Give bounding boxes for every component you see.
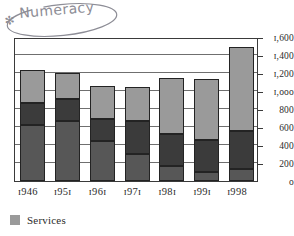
bar-segment-1991-middle[interactable]	[194, 140, 219, 172]
y-axis-tick-1200: ɪ,200	[274, 69, 294, 79]
x-axis-labels: ɪ946ɪ95ɪɪ96ɪɪ97ɪɪ98ɪɪ99ɪɪ998	[14, 186, 258, 202]
bar-segment-1951-middle[interactable]	[55, 99, 80, 121]
y-axis-tickmark	[258, 92, 263, 93]
y-axis-tick-1000: ɪ,ooo	[274, 87, 294, 97]
bar-1946[interactable]	[20, 70, 45, 181]
chart-root: ✻ Numeracy o200400600800ɪ,oooɪ,200ɪ,400ɪ…	[0, 0, 294, 236]
bar-1951[interactable]	[55, 73, 80, 181]
bar-segment-1951-Services[interactable]	[55, 73, 80, 100]
handwritten-annotation: ✻ Numeracy	[2, 1, 128, 41]
bar-1991[interactable]	[194, 79, 219, 181]
y-axis-tick-400: 400	[279, 141, 294, 151]
bar-segment-1946-middle[interactable]	[20, 103, 45, 125]
y-axis-labels: o200400600800ɪ,oooɪ,200ɪ,400ɪ,600	[259, 30, 294, 192]
y-axis-tickmark	[258, 38, 263, 39]
x-axis-tick-1991: ɪ99ɪ	[186, 186, 218, 197]
bar-segment-1971-Services[interactable]	[125, 87, 150, 121]
bars-container	[15, 39, 257, 181]
bar-segment-1961-Services[interactable]	[90, 86, 115, 119]
x-axis-tick-1981: ɪ98ɪ	[151, 186, 183, 197]
bar-segment-1981-middle[interactable]	[159, 134, 184, 166]
bar-segment-1998-middle[interactable]	[229, 131, 254, 170]
x-axis-tick-1946: ɪ946	[12, 186, 44, 197]
y-axis-tickmark	[258, 128, 263, 129]
chart-legend: Services	[10, 214, 66, 226]
x-axis-tick-1971: ɪ97ɪ	[117, 186, 149, 197]
bar-segment-1981-Services[interactable]	[159, 78, 184, 134]
y-axis-tick-600: 600	[279, 123, 294, 133]
y-axis-tick-200: 200	[279, 159, 294, 169]
y-axis-tickmark	[258, 110, 263, 111]
y-axis-tickmark	[258, 146, 263, 147]
bar-segment-1971-middle[interactable]	[125, 121, 150, 154]
bar-segment-1971-base[interactable]	[125, 154, 150, 181]
y-axis-tickmark	[258, 56, 263, 57]
x-axis-tick-1961: ɪ96ɪ	[82, 186, 114, 197]
annotation-star-icon: ✻	[4, 13, 16, 29]
bar-segment-1961-middle[interactable]	[90, 119, 115, 141]
y-axis-tickmark	[258, 74, 263, 75]
bar-segment-1998-Services[interactable]	[229, 47, 254, 131]
legend-swatch-services	[10, 215, 20, 225]
y-axis-tick-1600: ɪ,600	[274, 33, 294, 43]
bar-1981[interactable]	[159, 78, 184, 181]
y-axis-tickmark	[258, 164, 263, 165]
y-axis-tick-1400: ɪ,400	[274, 51, 294, 61]
bar-segment-1981-base[interactable]	[159, 166, 184, 181]
bar-1971[interactable]	[125, 87, 150, 181]
y-axis-tick-800: 800	[279, 105, 294, 115]
bar-segment-1991-Services[interactable]	[194, 79, 219, 140]
x-axis-tick-1951: ɪ95ɪ	[47, 186, 79, 197]
bar-segment-1951-base[interactable]	[55, 121, 80, 181]
bar-segment-1946-base[interactable]	[20, 125, 45, 181]
bar-segment-1998-base[interactable]	[229, 169, 254, 181]
legend-label-services: Services	[27, 214, 66, 226]
bar-segment-1946-Services[interactable]	[20, 70, 45, 103]
bar-1961[interactable]	[90, 86, 115, 181]
plot-area	[14, 38, 258, 182]
bar-segment-1991-base[interactable]	[194, 172, 219, 181]
bar-1998[interactable]	[229, 47, 254, 181]
x-axis-tick-1998: ɪ998	[221, 186, 253, 197]
y-axis-tick-0: o	[289, 177, 294, 187]
bar-segment-1961-base[interactable]	[90, 141, 115, 181]
